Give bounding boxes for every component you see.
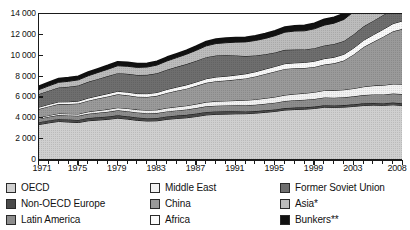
- y-tick-mark: [38, 13, 43, 14]
- x-tick-mark-minor: [176, 160, 177, 164]
- x-tick-mark-minor: [97, 160, 98, 164]
- y-tick-mark: [38, 34, 43, 35]
- legend-item[interactable]: Former Soviet Union: [280, 180, 385, 196]
- x-tick-mark-minor: [254, 160, 255, 164]
- x-tick-mark-minor: [166, 160, 167, 164]
- legend-item[interactable]: China: [150, 196, 216, 212]
- legend-item[interactable]: Africa: [150, 212, 216, 228]
- x-tick-label: 1995: [264, 164, 283, 173]
- y-axis: 02 0004 0006 0008 00010 00012 00014 000: [0, 0, 36, 176]
- x-tick-label: 1987: [186, 164, 205, 173]
- legend-item-label: Africa: [165, 215, 190, 225]
- legend-item[interactable]: Bunkers**: [280, 212, 385, 228]
- x-tick-mark-minor: [107, 160, 108, 164]
- x-tick-mark-minor: [363, 160, 364, 164]
- legend-column-3: Former Soviet UnionAsia*Bunkers**: [280, 180, 385, 228]
- x-tick-label: 2003: [343, 164, 362, 173]
- x-tick-label: 1971: [32, 164, 51, 173]
- x-tick-mark-minor: [146, 160, 147, 164]
- x-tick-mark-minor: [372, 160, 373, 164]
- x-tick-mark-minor: [392, 160, 393, 164]
- legend-item[interactable]: Latin America: [6, 212, 105, 228]
- y-tick-mark: [38, 117, 43, 118]
- x-tick-mark-minor: [127, 160, 128, 164]
- legend-swatch-icon: [6, 215, 16, 225]
- legend-swatch-icon: [6, 199, 16, 209]
- x-tick-mark-minor: [343, 160, 344, 164]
- x-tick-mark-major: [353, 160, 354, 165]
- x-tick-mark-major: [156, 160, 157, 165]
- y-tick-label: 8 000: [2, 72, 36, 81]
- y-tick-label: 6 000: [2, 92, 36, 101]
- y-tick-label: 2 000: [2, 134, 36, 143]
- legend-swatch-icon: [6, 183, 16, 193]
- x-tick-mark-minor: [333, 160, 334, 164]
- chart-page: 02 0004 0006 0008 00010 00012 00014 000 …: [0, 0, 410, 230]
- x-tick-mark-minor: [245, 160, 246, 164]
- x-tick-mark-minor: [382, 160, 383, 164]
- y-tick-label: 0: [2, 155, 36, 164]
- y-tick-mark: [38, 96, 43, 97]
- legend-swatch-icon: [150, 215, 160, 225]
- x-tick-mark-major: [38, 160, 39, 165]
- legend-swatch-icon: [280, 183, 290, 193]
- legend-item-label: China: [165, 199, 191, 209]
- x-tick-mark-minor: [264, 160, 265, 164]
- x-tick-mark-minor: [323, 160, 324, 164]
- y-tick-label: 4 000: [2, 113, 36, 122]
- x-tick-mark-minor: [205, 160, 206, 164]
- x-tick-mark-major: [274, 160, 275, 165]
- x-tick-mark-minor: [68, 160, 69, 164]
- x-tick-mark-minor: [186, 160, 187, 164]
- legend-item-label: Latin America: [21, 215, 80, 225]
- y-tick-mark: [38, 55, 43, 56]
- x-tick-mark-major: [235, 160, 236, 165]
- legend-item[interactable]: Middle East: [150, 180, 216, 196]
- x-tick-mark-major: [77, 160, 78, 165]
- x-tick-mark-minor: [215, 160, 216, 164]
- x-tick-label: 1991: [225, 164, 244, 173]
- y-tick-label: 12 000: [2, 30, 36, 39]
- legend-item-label: Bunkers**: [295, 215, 339, 225]
- x-tick-mark-major: [402, 160, 403, 165]
- x-tick-mark-minor: [284, 160, 285, 164]
- legend-item[interactable]: Asia*: [280, 196, 385, 212]
- x-tick-mark-minor: [225, 160, 226, 164]
- x-tick-mark-minor: [136, 160, 137, 164]
- y-tick-label: 10 000: [2, 51, 36, 60]
- legend-column-1: OECDNon-OECD EuropeLatin America: [6, 180, 105, 228]
- stacked-area-chart: 02 0004 0006 0008 00010 00012 00014 000 …: [0, 0, 410, 176]
- x-tick-label: 1979: [107, 164, 126, 173]
- x-tick-mark-major: [313, 160, 314, 165]
- x-axis: 1971197519791983198719911995199920032008: [0, 164, 410, 176]
- legend-item[interactable]: OECD: [6, 180, 105, 196]
- legend-item-label: Non-OECD Europe: [21, 199, 105, 209]
- x-tick-mark-major: [195, 160, 196, 165]
- legend-swatch-icon: [150, 183, 160, 193]
- x-tick-mark-minor: [48, 160, 49, 164]
- legend-item[interactable]: Non-OECD Europe: [6, 196, 105, 212]
- y-tick-mark: [38, 76, 43, 77]
- x-tick-mark-minor: [304, 160, 305, 164]
- x-tick-label: 1999: [304, 164, 323, 173]
- area-series-svg: [39, 14, 402, 159]
- legend-swatch-icon: [280, 199, 290, 209]
- x-tick-mark-minor: [294, 160, 295, 164]
- y-tick-label: 14 000: [2, 9, 36, 18]
- legend-swatch-icon: [280, 215, 290, 225]
- plot-area: [38, 13, 402, 159]
- legend-column-2: Middle EastChinaAfrica: [150, 180, 216, 228]
- x-tick-mark-major: [117, 160, 118, 165]
- chart-legend: OECDNon-OECD EuropeLatin America Middle …: [0, 180, 410, 230]
- x-tick-label: 2008: [387, 164, 406, 173]
- y-tick-mark: [38, 138, 43, 139]
- x-tick-mark-minor: [87, 160, 88, 164]
- legend-item-label: Middle East: [165, 183, 216, 193]
- legend-swatch-icon: [150, 199, 160, 209]
- x-tick-label: 1983: [146, 164, 165, 173]
- x-axis-line: [38, 159, 402, 161]
- x-tick-mark-minor: [58, 160, 59, 164]
- x-tick-label: 1975: [68, 164, 87, 173]
- legend-item-label: Asia*: [295, 199, 318, 209]
- legend-item-label: Former Soviet Union: [295, 183, 385, 193]
